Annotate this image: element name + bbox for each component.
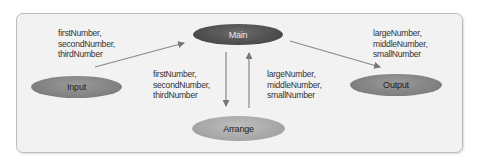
edge-label-line: thirdNumber [58,49,115,60]
edge-label-line: middleNumber, [267,80,322,91]
node-main: Main [193,24,283,45]
edge-label-line: largeNumber, [373,28,428,39]
node-output: Output [350,74,442,96]
edge-label-line: middleNumber, [373,39,428,50]
edge-label-line: largeNumber, [267,69,322,80]
node-input-label: Input [67,82,86,92]
edge-label-line: smallNumber [373,49,428,60]
node-arrange-label: Arrange [223,124,254,134]
edge-label-line: secondNumber, [153,80,210,91]
edge-label-input-to-main: firstNumber, secondNumber, thirdNumber [58,28,115,60]
node-input: Input [31,76,122,98]
edge-label-line: firstNumber, [58,28,115,39]
edge-label-line: smallNumber [267,90,322,101]
edge-label-main-to-arrange: firstNumber, secondNumber, thirdNumber [153,69,210,101]
node-output-label: Output [383,80,409,90]
node-arrange: Arrange [192,116,285,141]
edge-label-line: firstNumber, [153,69,210,80]
edge-label-line: secondNumber, [58,39,115,50]
node-main-label: Main [229,30,248,40]
edge-label-main-to-output: largeNumber, middleNumber, smallNumber [373,28,428,60]
edge-label-arrange-to-main: largeNumber, middleNumber, smallNumber [267,69,322,101]
edge-label-line: thirdNumber [153,90,210,101]
